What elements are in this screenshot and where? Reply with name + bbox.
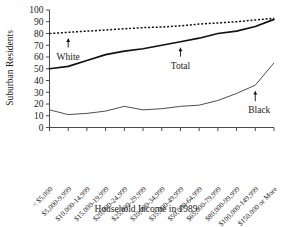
series-line-white [50,18,275,33]
y-axis-tick-labels: 0102030405060708090100 [29,5,44,132]
y-tick-label: 10 [34,111,44,121]
series-annotations-layer: WhiteTotalBlack [57,39,271,116]
y-tick-label: 100 [29,5,44,15]
series-line-black [50,63,275,115]
y-tick-label: 60 [34,52,44,62]
line-chart: Suburban Residents 010203040506070809010… [0,0,282,227]
y-tick-label: 20 [34,99,44,109]
y-tick-label: 30 [34,88,44,98]
y-tick-label: 70 [34,41,44,51]
annotation-arrowhead-white [66,39,70,42]
annotation-label-black: Black [248,105,270,115]
y-tick-label: 50 [34,64,44,74]
data-series-layer [50,18,275,114]
annotation-label-white: White [57,52,80,62]
x-axis-title: Household Income in 1989 [94,204,197,214]
series-line-total [50,19,275,68]
annotation-arrowhead-total [178,48,182,51]
y-tick-label: 90 [34,17,44,27]
y-axis-title: Suburban Residents [5,30,15,106]
y-tick-label: 40 [34,76,44,86]
chart-figure: Suburban Residents 010203040506070809010… [0,0,282,227]
y-tick-label: 80 [34,29,44,39]
x-axis-ticks [50,128,275,132]
axes [50,10,275,128]
annotation-label-total: Total [171,61,191,71]
y-tick-label: 0 [39,123,44,133]
annotation-arrowhead-black [253,91,257,94]
